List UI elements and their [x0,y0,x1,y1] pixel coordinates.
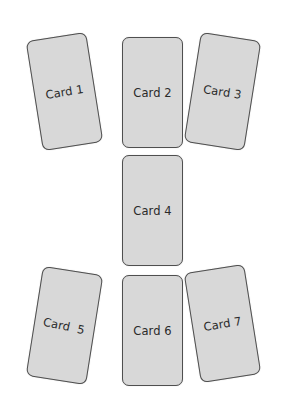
card-1: Card 1 [26,32,104,151]
cropped-text-fragment [40,0,250,2]
card-7: Card 7 [184,264,262,383]
card-label: Card 3 [202,82,242,102]
card-label: Card 4 [133,204,171,218]
card-5: Card 5 [26,266,104,385]
card-label: Card 7 [202,314,242,334]
card-label: Card 2 [133,86,171,100]
card-label: Card 1 [44,82,84,102]
card-label: Card 5 [42,314,86,336]
card-label: Card 6 [133,324,171,338]
card-3: Card 3 [184,32,262,151]
card-6: Card 6 [122,275,183,386]
card-2: Card 2 [122,37,183,148]
card-4: Card 4 [122,155,183,266]
